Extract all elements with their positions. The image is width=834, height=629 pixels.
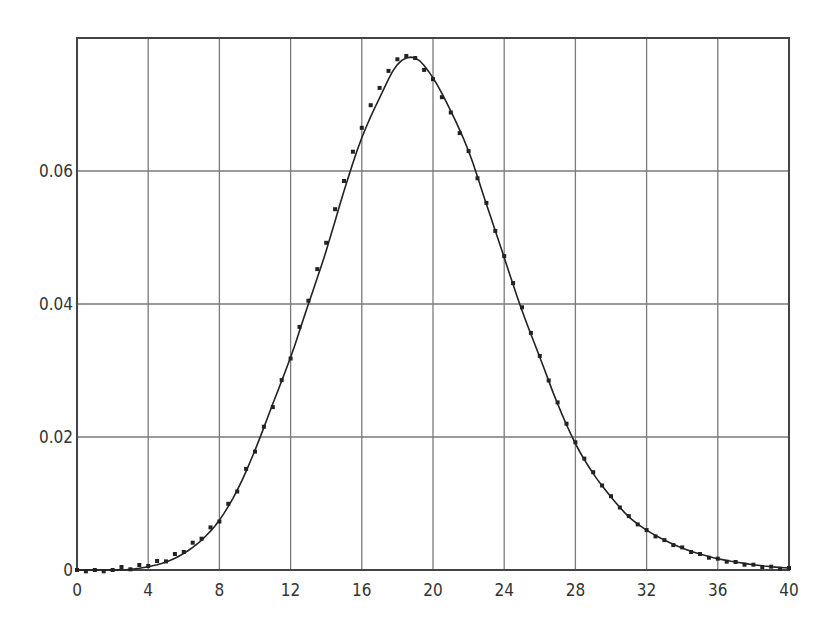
data-point — [298, 325, 302, 329]
data-point — [458, 131, 462, 135]
data-point — [556, 400, 560, 404]
x-tick-label: 0 — [72, 580, 82, 600]
data-point — [565, 422, 569, 426]
x-tick-label: 4 — [143, 580, 153, 600]
data-point — [333, 207, 337, 211]
data-point — [529, 331, 533, 335]
data-point — [636, 522, 640, 526]
data-point — [654, 534, 658, 538]
data-point — [164, 559, 168, 563]
data-point — [342, 179, 346, 183]
data-point — [760, 565, 764, 569]
data-point — [253, 450, 257, 454]
x-tick-label: 36 — [708, 580, 727, 600]
data-point — [538, 354, 542, 358]
data-point — [93, 568, 97, 572]
x-tick-label: 12 — [281, 580, 300, 600]
data-point — [324, 241, 328, 245]
data-point — [360, 126, 364, 130]
data-point — [315, 267, 319, 271]
x-tick-label: 32 — [637, 580, 656, 600]
grid-lines — [77, 38, 789, 570]
y-tick-label: 0 — [63, 560, 73, 580]
data-point — [155, 559, 159, 563]
data-point — [306, 299, 310, 303]
data-point — [662, 538, 666, 542]
data-point — [404, 54, 408, 58]
y-tick-label: 0.04 — [39, 294, 73, 314]
data-point — [182, 550, 186, 554]
data-point — [609, 494, 613, 498]
data-point — [778, 567, 782, 571]
data-point — [395, 57, 399, 61]
data-point — [787, 566, 791, 570]
data-point — [84, 569, 88, 573]
data-point — [289, 357, 293, 361]
data-point — [600, 484, 604, 488]
data-point — [645, 528, 649, 532]
data-point — [440, 95, 444, 99]
data-point — [137, 563, 141, 567]
data-point — [351, 150, 355, 154]
x-tick-label: 40 — [779, 580, 798, 600]
data-point — [128, 567, 132, 571]
data-point — [387, 69, 391, 73]
data-point — [431, 77, 435, 81]
data-point — [743, 563, 747, 567]
data-point — [244, 467, 248, 471]
data-point — [725, 560, 729, 564]
data-point — [591, 470, 595, 474]
data-point — [689, 550, 693, 554]
data-point — [413, 56, 417, 60]
data-point — [502, 254, 506, 258]
data-point — [271, 405, 275, 409]
data-point — [582, 457, 586, 461]
data-point — [671, 543, 675, 547]
y-tick-label: 0.02 — [39, 427, 73, 447]
data-point — [476, 176, 480, 180]
data-point — [627, 514, 631, 518]
data-point — [280, 378, 284, 382]
data-point — [698, 552, 702, 556]
x-tick-label: 20 — [423, 580, 442, 600]
data-point — [484, 201, 488, 205]
data-point — [191, 541, 195, 545]
data-point — [716, 557, 720, 561]
data-point — [235, 490, 239, 494]
data-point — [769, 565, 773, 569]
x-tick-label: 24 — [494, 580, 513, 600]
data-point — [734, 560, 738, 564]
data-point — [173, 552, 177, 556]
data-point — [217, 520, 221, 524]
x-axis-ticks: 0481216202428323640 — [72, 580, 799, 600]
data-point — [209, 525, 213, 529]
data-point — [422, 68, 426, 72]
data-point — [226, 502, 230, 506]
data-point — [707, 556, 711, 560]
data-point — [120, 565, 124, 569]
data-point — [511, 281, 515, 285]
data-point — [102, 569, 106, 573]
x-tick-label: 8 — [215, 580, 225, 600]
data-point — [618, 506, 622, 510]
data-point — [200, 537, 204, 541]
data-point — [369, 103, 373, 107]
data-point — [75, 568, 79, 572]
data-point — [751, 563, 755, 567]
data-point — [520, 305, 524, 309]
x-tick-label: 16 — [352, 580, 371, 600]
x-tick-label: 28 — [566, 580, 585, 600]
y-axis-ticks: 00.020.040.06 — [39, 161, 73, 580]
data-point — [111, 568, 115, 572]
y-tick-label: 0.06 — [39, 161, 73, 181]
data-point — [467, 149, 471, 153]
chart: 0481216202428323640 00.020.040.06 — [0, 0, 834, 629]
data-point — [449, 111, 453, 115]
data-point — [262, 425, 266, 429]
data-point — [573, 440, 577, 444]
data-point — [493, 229, 497, 233]
data-point — [146, 564, 150, 568]
data-point — [378, 86, 382, 90]
data-point — [680, 545, 684, 549]
data-point — [547, 379, 551, 383]
